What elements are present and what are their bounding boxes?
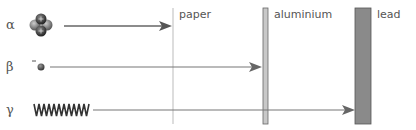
beta-symbol: β [6, 60, 14, 73]
gamma-symbol: γ [6, 103, 14, 116]
wave-icon [34, 104, 89, 116]
beta-arrow [50, 62, 262, 72]
aluminium-barrier [263, 8, 268, 124]
lead-barrier [355, 8, 371, 124]
paper-label: paper [179, 9, 211, 20]
helium-nucleus-icon [30, 14, 53, 37]
alpha-arrow [64, 21, 172, 31]
aluminium-label: aluminium [274, 9, 332, 20]
alpha-symbol: α [6, 18, 15, 31]
electron-icon [32, 61, 45, 71]
lead-label: lead [377, 9, 401, 20]
gamma-arrow [93, 105, 355, 115]
